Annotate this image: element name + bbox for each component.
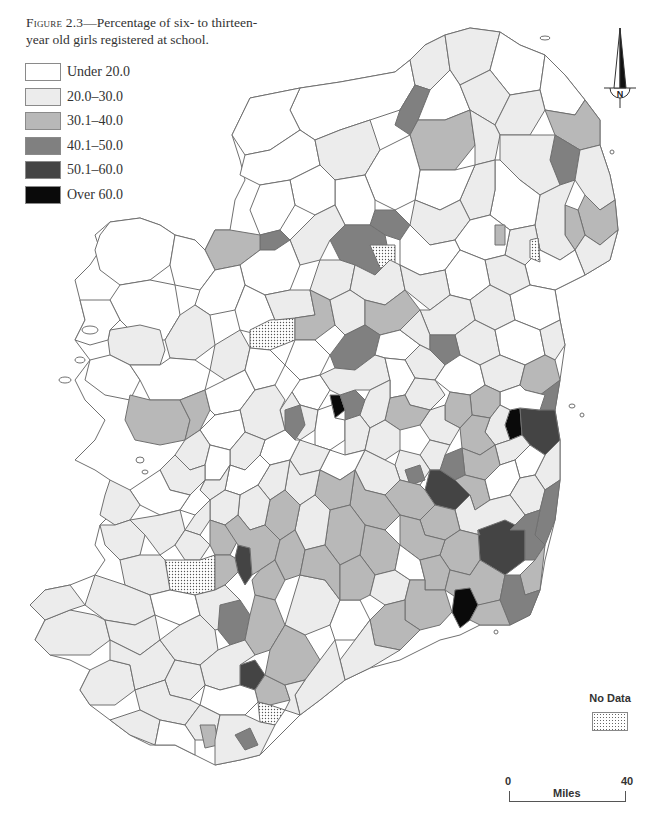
no-data-swatch: [592, 712, 628, 731]
region: [495, 225, 505, 245]
region: [165, 555, 215, 595]
no-data-legend: No Data: [575, 692, 645, 731]
region: [125, 395, 190, 445]
scale-bar-line: [509, 791, 626, 802]
north-label: N: [617, 89, 624, 99]
north-arrow-icon: N: [600, 20, 640, 110]
region: [530, 238, 540, 262]
scale-end-label: 40: [621, 775, 633, 787]
scale-start-label: 0: [505, 775, 511, 787]
no-data-label: No Data: [575, 692, 645, 704]
region: [540, 55, 585, 115]
scale-bar: 0 40 Miles: [505, 775, 645, 815]
map-regions: [30, 28, 618, 765]
ireland-choropleth-map: [0, 0, 649, 819]
